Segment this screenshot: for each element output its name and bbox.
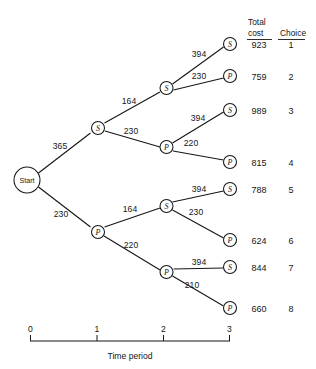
axis-tick-label-3: 3 [227, 324, 232, 334]
edge-label-start-n1s: 365 [53, 141, 68, 151]
edge-start-n1p [39, 187, 91, 227]
node-t8[interactable]: P [224, 302, 237, 315]
total-cost-value: 844 [251, 263, 266, 273]
edge-label-n2c-t5: 394 [192, 184, 207, 194]
node-label: S [228, 106, 232, 115]
start-node-label: Start [19, 176, 34, 185]
total-cost-header-line2: cost [248, 28, 264, 38]
table-row: 844 7 [251, 263, 293, 273]
edge-label-n2b-t4: 220 [184, 138, 199, 148]
edge-n2d-t7 [174, 268, 224, 269]
node-label: S [228, 185, 232, 194]
total-cost-value: 815 [251, 158, 266, 168]
edge-label-n2b-t3: 394 [191, 113, 206, 123]
total-cost-value: 660 [251, 304, 266, 314]
total-cost-value: 759 [251, 72, 266, 82]
time-axis: 0 1 2 3 Time period [28, 324, 232, 361]
node-t4[interactable]: P [224, 156, 237, 169]
table-row: 815 4 [251, 158, 293, 168]
node-label: P [227, 304, 233, 313]
node-t5[interactable]: S [224, 183, 237, 196]
table-row: 624 6 [251, 236, 293, 246]
node-t1[interactable]: S [224, 38, 237, 51]
choice-value: 6 [288, 236, 293, 246]
node-t2[interactable]: P [224, 70, 237, 83]
total-cost-header-line1: Total [248, 17, 266, 27]
node-label: P [95, 228, 101, 237]
choice-value: 4 [288, 158, 293, 168]
edge-label-n1p-n2c: 164 [123, 204, 138, 214]
edge-label-start-n1p: 230 [54, 209, 69, 219]
table-row: 923 1 [251, 40, 293, 50]
results-table-rows: 923 1 759 2 989 3 815 4 788 5 624 6 [251, 40, 293, 314]
edge-label-n2a-t1: 394 [192, 49, 207, 59]
node-label: S [165, 84, 169, 93]
edge-label-n1p-n2d: 220 [124, 240, 139, 250]
table-row: 989 3 [251, 106, 293, 116]
node-n2d[interactable]: P [160, 266, 173, 279]
edge-label-n2d-t7: 394 [192, 257, 207, 267]
table-row: 759 2 [251, 72, 293, 82]
axis-tick-label-0: 0 [28, 324, 33, 334]
node-label: P [227, 72, 233, 81]
choice-value: 3 [288, 106, 293, 116]
node-label: S [96, 124, 100, 133]
results-table-header: Total cost Choice [247, 17, 306, 40]
total-cost-value: 989 [251, 106, 266, 116]
node-t6[interactable]: P [224, 234, 237, 247]
node-n2c[interactable]: S [160, 200, 173, 213]
edge-label-n2d-t8: 210 [185, 280, 200, 290]
edge-label-group: 365 230 164 230 164 220 394 230 394 220 … [53, 49, 207, 290]
total-cost-value: 923 [251, 40, 266, 50]
choice-value: 8 [288, 304, 293, 314]
node-t7[interactable]: S [224, 261, 237, 274]
choice-value: 2 [288, 72, 293, 82]
axis-tick-label-2: 2 [161, 324, 166, 334]
edge-group [39, 47, 224, 306]
choice-value: 5 [288, 185, 293, 195]
node-label: S [228, 40, 232, 49]
choice-value: 7 [288, 263, 293, 273]
node-n2b[interactable]: P [160, 141, 173, 154]
edge-label-n2a-t2: 230 [192, 71, 207, 81]
node-label: P [163, 143, 169, 152]
edge-label-n1s-n2b: 230 [124, 126, 139, 136]
node-n1s[interactable]: S [92, 122, 105, 135]
axis-tick-label-1: 1 [95, 324, 100, 334]
node-label: S [228, 263, 232, 272]
decision-tree-canvas: 365 230 164 230 164 220 394 230 394 220 … [0, 0, 316, 369]
edge-label-n1s-n2a: 164 [122, 96, 137, 106]
node-t3[interactable]: S [224, 104, 237, 117]
axis-title: Time period [107, 351, 152, 361]
node-label: P [163, 268, 169, 277]
node-label: P [227, 158, 233, 167]
table-row: 788 5 [251, 185, 293, 195]
edge-label-n2c-t6: 230 [189, 207, 204, 217]
decision-tree-figure: 365 230 164 230 164 220 394 230 394 220 … [0, 0, 316, 369]
edge-n2b-t4 [173, 151, 224, 160]
total-cost-value: 624 [251, 236, 266, 246]
edge-start-n1s [39, 133, 91, 173]
node-n1p[interactable]: P [92, 226, 105, 239]
node-label: S [165, 202, 169, 211]
node-n2a[interactable]: S [160, 82, 173, 95]
node-label: P [227, 236, 233, 245]
choice-value: 1 [288, 40, 293, 50]
table-row: 660 8 [251, 304, 293, 314]
choice-header: Choice [280, 28, 306, 38]
node-start[interactable]: Start [14, 167, 40, 193]
total-cost-value: 788 [251, 185, 266, 195]
